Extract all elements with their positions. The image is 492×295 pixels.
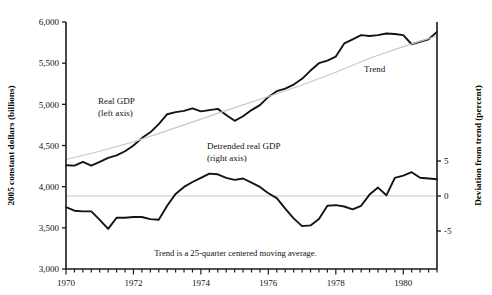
- y-axis-left-tick-label: 5,000: [39, 100, 60, 110]
- y-axis-left-tick-label: 3,000: [39, 264, 60, 274]
- y-axis-left-title: 2005 constant dollars (billions): [6, 85, 16, 205]
- x-axis-tick-label: 1972: [124, 278, 142, 288]
- y-axis-right-tick-label: -5: [444, 226, 452, 236]
- y-axis-right-tick-label: 0: [444, 191, 449, 201]
- y-axis-left-tick-label: 6,000: [39, 17, 60, 27]
- gdp-trend-chart: 3,0003,5004,0004,5005,0005,5006,0002005 …: [0, 0, 492, 295]
- chart-canvas: 3,0003,5004,0004,5005,0005,5006,0002005 …: [0, 0, 492, 295]
- x-axis-tick-label: 1980: [394, 278, 413, 288]
- y-axis-left-tick-label: 3,500: [39, 223, 60, 233]
- x-axis-tick-label: 1976: [259, 278, 278, 288]
- x-axis-tick-label: 1974: [192, 278, 211, 288]
- trend-label-line: Trend: [364, 64, 386, 74]
- real-gdp-label-line: Real GDP: [98, 96, 135, 106]
- y-axis-right-title: Deviation from trend (percent): [473, 85, 483, 206]
- x-axis-tick-label: 1978: [327, 278, 346, 288]
- series-line-detrended-real-gdp: [66, 172, 437, 229]
- trend-label: Trend: [364, 64, 386, 74]
- real-gdp-label-line: (left axis): [98, 108, 133, 118]
- detrended-label-line: (right axis): [207, 153, 247, 163]
- y-axis-right-tick-label: 5: [444, 156, 449, 166]
- y-axis-left-tick-label: 4,000: [39, 182, 60, 192]
- detrended-label-line: Detrended real GDP: [207, 141, 280, 151]
- y-axis-left-tick-label: 4,500: [39, 141, 60, 151]
- x-axis-tick-label: 1970: [57, 278, 76, 288]
- y-axis-left-tick-label: 5,500: [39, 58, 60, 68]
- real-gdp-label: Real GDP(left axis): [98, 96, 135, 118]
- detrended-label: Detrended real GDP(right axis): [207, 141, 280, 163]
- chart-footnote: Trend is a 25-quarter centered moving av…: [154, 248, 317, 258]
